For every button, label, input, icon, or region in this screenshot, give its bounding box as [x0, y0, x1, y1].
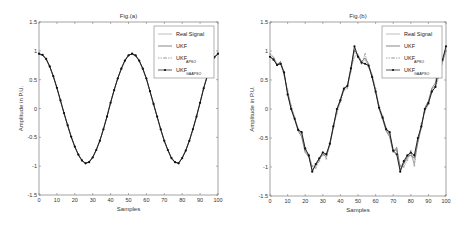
- data-point: [424, 108, 426, 110]
- data-point: [378, 107, 380, 109]
- x-tick-label: 0: [37, 197, 40, 203]
- legend-label-subscript: GAAPSO: [186, 72, 201, 76]
- x-tick-label: 10: [285, 198, 291, 204]
- data-point: [445, 45, 447, 47]
- legend: Real SignalUKFUKFAPSOUKFGAAPSO: [382, 26, 442, 78]
- data-point: [152, 103, 154, 105]
- data-point: [135, 54, 137, 56]
- data-point: [142, 68, 144, 70]
- data-point: [45, 58, 47, 60]
- data-point: [272, 59, 274, 61]
- x-axis-label: Samples: [117, 206, 140, 212]
- data-point: [81, 159, 83, 161]
- data-point: [279, 63, 281, 65]
- data-point: [127, 54, 129, 56]
- legend-marker: [164, 69, 166, 71]
- legend-label: Real Signal: [176, 31, 204, 37]
- data-point: [138, 60, 140, 62]
- x-tick-label: 30: [320, 198, 326, 204]
- data-point: [174, 161, 176, 163]
- data-point: [49, 65, 51, 67]
- data-point: [427, 102, 429, 104]
- data-point: [276, 64, 278, 66]
- chart-title: Fig.(a): [120, 13, 137, 19]
- data-point: [217, 53, 219, 55]
- legend-label: UKF: [404, 43, 416, 49]
- data-point: [63, 112, 65, 114]
- x-tick-label: 40: [337, 198, 343, 204]
- data-point: [396, 153, 398, 155]
- x-tick-label: 30: [90, 197, 96, 203]
- x-tick-label: 90: [197, 197, 203, 203]
- data-point: [413, 154, 415, 156]
- x-tick-label: 80: [408, 198, 414, 204]
- data-point: [113, 89, 115, 91]
- x-tick-label: 100: [213, 197, 222, 203]
- x-tick-label: 80: [179, 197, 185, 203]
- data-point: [99, 140, 101, 142]
- data-point: [360, 62, 362, 64]
- x-tick-label: 60: [373, 198, 379, 204]
- x-tick-label: 100: [441, 198, 450, 204]
- legend-label-subscript: GAAPSO: [414, 72, 429, 76]
- data-point: [346, 85, 348, 87]
- data-point: [192, 128, 194, 130]
- x-tick-label: 20: [72, 197, 78, 203]
- data-point: [385, 128, 387, 130]
- data-point: [420, 125, 422, 127]
- data-point: [106, 115, 108, 117]
- data-point: [203, 87, 205, 89]
- data-point: [290, 108, 292, 110]
- data-point: [329, 143, 331, 145]
- legend-label-subscript: APSO: [186, 60, 196, 64]
- plot-b: 0102030405060708090100-1.5-1-0.500.511.5…: [249, 13, 451, 213]
- data-point: [343, 88, 345, 90]
- data-point: [77, 154, 79, 156]
- y-tick-label: 1: [265, 48, 268, 54]
- data-point: [364, 63, 366, 65]
- data-point: [110, 102, 112, 104]
- data-point: [38, 53, 40, 55]
- y-axis-label: Amplitude in P.U.: [18, 85, 24, 131]
- data-point: [185, 149, 187, 151]
- data-point: [431, 91, 433, 93]
- data-point: [311, 171, 313, 173]
- y-axis-label: Amplitude in P.U.: [249, 86, 255, 132]
- x-tick-label: 0: [268, 198, 271, 204]
- x-tick-label: 90: [425, 198, 431, 204]
- data-point: [336, 108, 338, 110]
- x-tick-label: 10: [54, 197, 60, 203]
- y-tick-label: 1.5: [29, 19, 37, 25]
- data-point: [382, 117, 384, 119]
- data-point: [88, 161, 90, 163]
- data-point: [308, 154, 310, 156]
- y-tick-label: -1.5: [259, 193, 268, 199]
- y-tick-label: -1: [263, 164, 268, 170]
- data-point: [434, 86, 436, 88]
- data-point: [417, 137, 419, 139]
- plot-a: 0102030405060708090100-1.5-1-0.500.511.5…: [18, 13, 223, 212]
- data-point: [145, 77, 147, 79]
- data-point: [353, 45, 355, 47]
- legend-label: Real Signal: [404, 31, 432, 37]
- data-point: [188, 140, 190, 142]
- data-point: [399, 171, 401, 173]
- y-tick-label: 0: [34, 106, 37, 112]
- data-point: [301, 131, 303, 133]
- legend: Real SignalUKFUKFAPSOUKFGAAPSO: [154, 26, 214, 78]
- y-tick-label: 1: [34, 48, 37, 54]
- data-point: [322, 151, 324, 153]
- data-point: [389, 131, 391, 133]
- data-point: [56, 87, 58, 89]
- chart-title: Fig.(b): [349, 13, 366, 19]
- data-point: [287, 93, 289, 95]
- y-tick-label: -1: [32, 163, 37, 169]
- data-point: [131, 53, 133, 55]
- data-point: [74, 145, 76, 147]
- legend-label: UKF: [176, 43, 188, 49]
- x-tick-label: 60: [143, 197, 149, 203]
- data-point: [339, 99, 341, 101]
- data-point: [350, 67, 352, 69]
- x-tick-label: 40: [108, 197, 114, 203]
- y-tick-label: 0.5: [260, 77, 268, 83]
